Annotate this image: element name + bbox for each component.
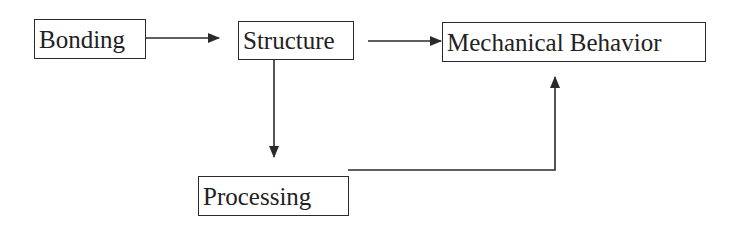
node-bonding: Bonding <box>34 19 146 59</box>
node-structure-label: Structure <box>243 28 335 53</box>
node-bonding-label: Bonding <box>39 27 125 52</box>
arrow-processing-to-mechanical-behavior <box>348 77 555 170</box>
node-mechanical-behavior: Mechanical Behavior <box>442 22 706 62</box>
node-mechanical-behavior-label: Mechanical Behavior <box>447 30 662 55</box>
node-structure: Structure <box>238 21 354 60</box>
node-processing: Processing <box>198 176 349 216</box>
node-processing-label: Processing <box>203 184 311 209</box>
